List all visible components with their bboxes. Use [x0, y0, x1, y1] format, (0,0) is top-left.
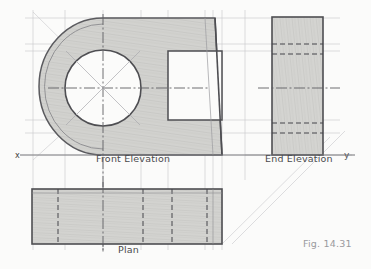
plan-view: [32, 182, 222, 252]
technical-drawing-canvas: [0, 0, 371, 269]
x-axis-marker: x: [15, 151, 20, 160]
front-elevation-opening: [168, 51, 222, 120]
drawing-sheet: Front Elevation End Elevation Plan x y F…: [0, 0, 371, 269]
plan-outline: [32, 189, 222, 244]
end-elevation-outline: [272, 17, 323, 155]
end-elevation-view: [258, 17, 340, 155]
y-axis-marker: y: [344, 150, 350, 160]
figure-caption: Fig. 14.31: [303, 238, 352, 249]
plan-label: Plan: [118, 244, 139, 255]
front-elevation-label: Front Elevation: [96, 153, 170, 164]
end-elevation-label: End Elevation: [265, 153, 333, 164]
